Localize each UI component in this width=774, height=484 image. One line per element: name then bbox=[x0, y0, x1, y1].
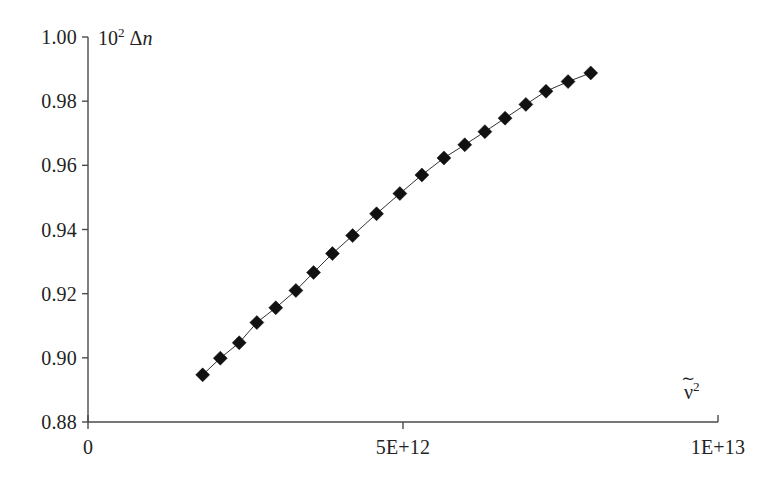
y-axis-tick-label: 0.90 bbox=[41, 346, 77, 369]
data-point-marker bbox=[539, 84, 553, 98]
plot-canvas bbox=[0, 0, 774, 484]
data-point-marker bbox=[498, 111, 512, 125]
y-axis-tick-label: 0.88 bbox=[41, 411, 77, 434]
data-point-marker bbox=[269, 301, 283, 315]
x-axis-title-nu-group: ∼ν bbox=[684, 381, 693, 404]
data-point-marker bbox=[478, 125, 492, 139]
y-axis-tick-label: 0.92 bbox=[41, 282, 77, 305]
y-axis-title-variable: n bbox=[142, 27, 152, 49]
data-line bbox=[203, 73, 591, 375]
axis-ticks bbox=[82, 37, 718, 429]
x-axis-title: ∼ν2 bbox=[684, 381, 700, 404]
data-point-marker bbox=[584, 66, 598, 80]
y-axis-tick-label: 0.96 bbox=[41, 154, 77, 177]
data-markers bbox=[196, 66, 598, 382]
y-axis-title-prefix: 10 bbox=[98, 27, 118, 49]
y-axis-title-exponent: 2 bbox=[118, 25, 125, 40]
x-axis-tick-label: 1E+13 bbox=[691, 436, 746, 459]
chart-figure: 0.880.900.920.940.960.981.00 05E+121E+13… bbox=[0, 0, 774, 484]
data-point-marker bbox=[561, 75, 575, 89]
y-axis-tick-label: 1.00 bbox=[41, 26, 77, 49]
data-series-line bbox=[203, 73, 591, 375]
y-axis-title: 102 Δn bbox=[98, 27, 152, 50]
y-axis-title-delta: Δ bbox=[130, 27, 143, 49]
y-axis-tick-label: 0.94 bbox=[41, 218, 77, 241]
x-axis-tick-label: 0 bbox=[83, 436, 93, 459]
data-point-marker bbox=[415, 168, 429, 182]
data-point-marker bbox=[437, 151, 451, 165]
x-axis-title-tilde: ∼ bbox=[681, 371, 695, 387]
x-axis-tick-label: 5E+12 bbox=[376, 436, 431, 459]
y-axis-tick-label: 0.98 bbox=[41, 90, 77, 113]
data-point-marker bbox=[519, 97, 533, 111]
axis-lines bbox=[88, 37, 718, 422]
data-point-marker bbox=[458, 138, 472, 152]
